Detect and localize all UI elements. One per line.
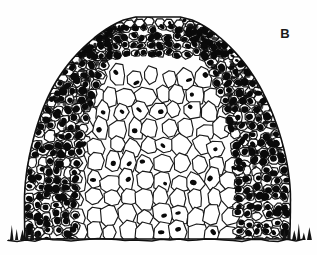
stain-granule bbox=[255, 115, 261, 120]
stain-granule bbox=[268, 153, 275, 157]
stain-granule bbox=[206, 47, 210, 51]
stain-granule bbox=[247, 178, 251, 181]
stain-granule bbox=[229, 52, 232, 55]
stain-granule bbox=[255, 183, 260, 186]
stain-granule bbox=[72, 99, 79, 105]
stain-granule bbox=[254, 150, 260, 154]
cell bbox=[154, 154, 174, 172]
stain-granule bbox=[198, 33, 203, 36]
stain-granule bbox=[113, 26, 117, 30]
stain-granule bbox=[54, 143, 61, 149]
stain-granule bbox=[262, 189, 269, 193]
stain-granule bbox=[204, 55, 209, 59]
stain-granule bbox=[69, 183, 74, 187]
panel-label-b: B bbox=[277, 25, 293, 43]
stain-granule bbox=[99, 54, 105, 57]
stain-granule bbox=[219, 67, 225, 73]
stain-granule bbox=[225, 107, 230, 110]
stain-granule bbox=[58, 121, 63, 125]
stain-granule bbox=[93, 43, 96, 48]
stain-granule bbox=[42, 196, 47, 199]
stain-granule bbox=[241, 69, 245, 75]
stain-granule bbox=[54, 133, 61, 137]
stain-granule bbox=[107, 34, 113, 38]
stain-granule bbox=[276, 147, 282, 153]
stain-granule bbox=[84, 90, 89, 93]
meristem-drawing bbox=[0, 0, 317, 255]
stain-granule bbox=[57, 101, 61, 105]
stain-granule bbox=[215, 51, 219, 57]
stain-granule bbox=[247, 121, 253, 125]
stain-granule bbox=[70, 62, 75, 67]
stain-granule bbox=[54, 175, 59, 178]
stain-granule bbox=[219, 55, 226, 59]
stain-granule bbox=[268, 172, 273, 175]
stain-granule bbox=[228, 96, 233, 102]
stain-granule bbox=[234, 122, 240, 125]
stain-granule bbox=[228, 66, 234, 70]
cell bbox=[135, 189, 154, 211]
stain-granule bbox=[195, 39, 201, 43]
cell bbox=[44, 130, 55, 142]
stain-granule bbox=[229, 60, 233, 63]
stain-granule bbox=[70, 197, 76, 203]
stain-granule bbox=[250, 89, 257, 93]
stain-granule bbox=[52, 152, 57, 157]
stain-granule bbox=[235, 72, 239, 78]
stain-granule bbox=[82, 61, 87, 65]
stain-granule bbox=[70, 128, 76, 132]
stain-granule bbox=[79, 69, 86, 72]
stain-granule bbox=[210, 44, 215, 48]
stain-granule bbox=[87, 49, 93, 52]
stain-granule bbox=[76, 118, 83, 123]
stain-granule bbox=[234, 102, 239, 108]
stain-granule bbox=[228, 88, 232, 93]
stain-granule bbox=[35, 175, 40, 180]
stain-granule bbox=[255, 107, 259, 113]
stain-granule bbox=[119, 32, 123, 37]
stain-granule bbox=[94, 64, 99, 67]
stain-granule bbox=[73, 136, 79, 141]
stain-granule bbox=[45, 165, 48, 169]
stain-granule bbox=[212, 37, 219, 41]
stain-granule bbox=[84, 77, 91, 83]
stain-granule bbox=[263, 122, 267, 126]
stain-granule bbox=[270, 132, 274, 136]
stain-granule bbox=[75, 127, 80, 130]
stain-granule bbox=[60, 142, 64, 148]
stain-granule bbox=[94, 73, 97, 78]
stain-granule bbox=[236, 147, 240, 151]
stain-granule bbox=[78, 57, 82, 62]
stain-granule bbox=[94, 60, 99, 64]
stain-granule bbox=[92, 48, 96, 51]
stain-granule bbox=[75, 61, 79, 64]
stain-granule bbox=[233, 126, 237, 131]
stain-granule bbox=[265, 179, 269, 182]
stain-granule bbox=[86, 97, 92, 103]
stain-granule bbox=[250, 192, 257, 197]
cell bbox=[127, 71, 142, 88]
stain-granule bbox=[113, 30, 117, 34]
stain-granule bbox=[244, 75, 250, 78]
stain-granule bbox=[63, 101, 67, 107]
cell bbox=[88, 152, 105, 170]
stain-granule bbox=[242, 149, 247, 154]
stain-granule bbox=[60, 186, 66, 192]
stain-granule bbox=[274, 195, 278, 199]
figure-panel: B bbox=[0, 0, 317, 255]
stain-granule bbox=[243, 92, 248, 98]
stain-granule bbox=[59, 152, 66, 158]
stain-granule bbox=[61, 135, 65, 140]
stain-granule bbox=[246, 80, 253, 85]
stain-granule bbox=[236, 159, 241, 164]
cell bbox=[144, 17, 154, 25]
stain-granule bbox=[63, 144, 70, 148]
stain-granule bbox=[252, 164, 256, 170]
stain-granule bbox=[92, 54, 97, 57]
stain-granule bbox=[211, 64, 218, 70]
stain-granule bbox=[63, 127, 69, 131]
stain-granule bbox=[108, 43, 113, 48]
stain-granule bbox=[70, 74, 75, 80]
stain-granule bbox=[40, 146, 44, 149]
stain-granule bbox=[101, 58, 108, 64]
